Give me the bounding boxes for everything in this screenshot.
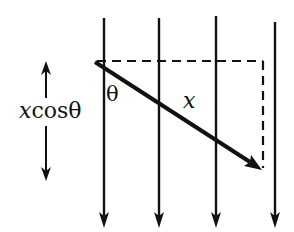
displacement-vector <box>95 62 250 162</box>
projection-label: xcosθ <box>19 100 82 122</box>
projection-label-cos: cosθ <box>31 98 81 123</box>
displacement-arrowhead-icon <box>244 155 262 170</box>
diagram-canvas: θ x xcosθ <box>0 0 294 232</box>
displacement-label: x <box>183 90 195 112</box>
angle-label: θ <box>106 84 119 105</box>
projection-label-var: x <box>19 98 31 123</box>
